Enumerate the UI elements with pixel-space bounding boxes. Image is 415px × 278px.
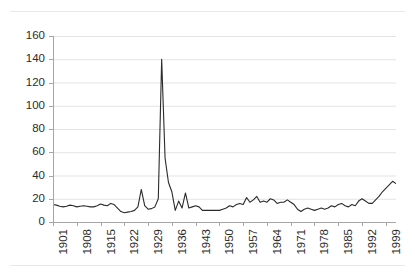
x-axis-label: 1964 <box>272 229 283 255</box>
x-axis-label: 1957 <box>248 229 259 255</box>
y-axis-label-box: 100 <box>0 100 45 111</box>
x-axis-label: 1978 <box>319 229 330 255</box>
x-axis-tick <box>53 222 54 226</box>
x-axis-label: 1908 <box>82 229 93 255</box>
y-axis-label: 40 <box>1 170 45 181</box>
figure-bottom-border <box>10 265 405 266</box>
x-axis-tick <box>267 222 268 226</box>
y-axis-label: 0 <box>1 216 45 227</box>
x-axis-label: 1901 <box>58 229 69 255</box>
x-axis-tick <box>196 222 197 226</box>
x-axis-label: 1985 <box>343 229 354 255</box>
x-axis-label: 1971 <box>296 229 307 255</box>
plot-area <box>53 36 396 222</box>
y-axis-line <box>53 36 54 222</box>
y-axis-label: 80 <box>1 123 45 134</box>
x-axis-tick <box>291 222 292 226</box>
x-axis-tick <box>101 222 102 226</box>
y-axis-label-box: 0 <box>0 216 45 227</box>
x-axis-tick <box>338 222 339 226</box>
y-axis-label-box: 60 <box>0 146 45 157</box>
x-axis-tick <box>219 222 220 226</box>
x-axis-label: 1929 <box>153 229 164 255</box>
x-axis-label: 1943 <box>201 229 212 255</box>
x-axis-line <box>53 222 396 223</box>
x-axis-label: 1950 <box>224 229 235 255</box>
x-axis-tick <box>172 222 173 226</box>
x-axis-label: 1999 <box>391 229 402 255</box>
figure-top-border <box>10 11 405 12</box>
x-axis-tick <box>314 222 315 226</box>
y-axis-label: 20 <box>1 193 45 204</box>
y-axis-label: 120 <box>1 77 45 88</box>
y-axis-label-box: 120 <box>0 77 45 88</box>
gridlines <box>53 37 396 200</box>
x-axis-label: 1936 <box>177 229 188 255</box>
y-axis-label: 100 <box>1 100 45 111</box>
y-axis-label-box: 140 <box>0 53 45 64</box>
y-axis-label-box: 20 <box>0 193 45 204</box>
x-axis-tick <box>148 222 149 226</box>
y-axis-label: 60 <box>1 146 45 157</box>
y-axis-label: 160 <box>1 30 45 41</box>
x-axis-label: 1922 <box>129 229 140 255</box>
x-axis-tick <box>243 222 244 226</box>
y-axis-label-box: 80 <box>0 123 45 134</box>
y-axis-label-box: 40 <box>0 170 45 181</box>
chart-figure: 020406080100120140160 190119081915192219… <box>0 0 415 278</box>
x-axis-tick <box>124 222 125 226</box>
x-axis-label: 1915 <box>106 229 117 255</box>
x-axis-tick <box>77 222 78 226</box>
plot-svg <box>53 36 396 222</box>
data-series-line <box>53 59 396 212</box>
x-axis-tick <box>362 222 363 226</box>
y-axis-label: 140 <box>1 53 45 64</box>
y-axis-label-box: 160 <box>0 30 45 41</box>
x-axis-tick <box>386 222 387 226</box>
x-axis-label: 1992 <box>367 229 378 255</box>
